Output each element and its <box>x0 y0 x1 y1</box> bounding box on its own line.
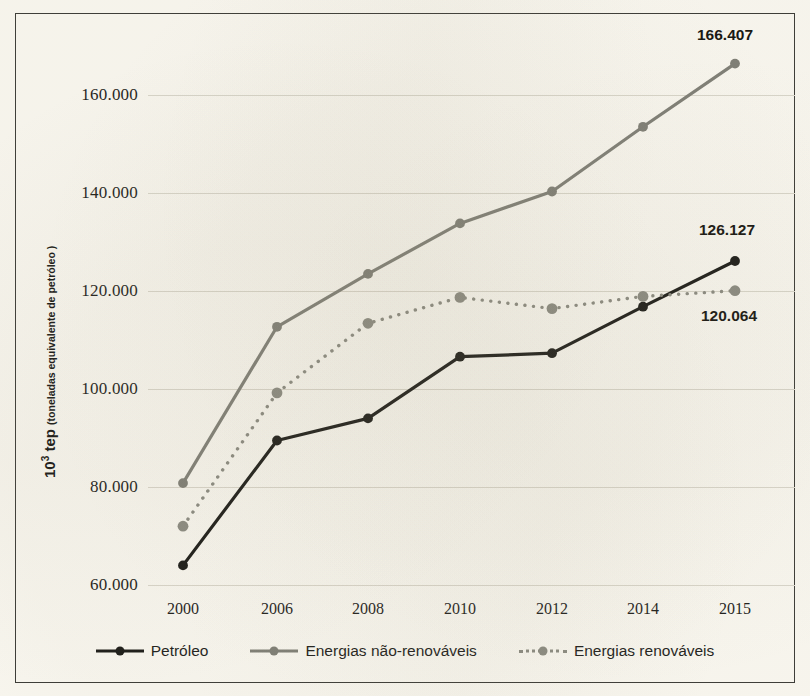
series-plot <box>0 0 810 696</box>
series-marker <box>272 436 282 446</box>
series-marker <box>363 269 373 279</box>
series-marker <box>730 59 740 69</box>
data-value-label: 166.407 <box>697 26 753 44</box>
series-marker <box>638 122 648 132</box>
legend-swatch-icon <box>96 645 144 657</box>
series-marker <box>638 302 648 312</box>
data-value-label: 120.064 <box>701 307 757 325</box>
series-line <box>183 261 735 565</box>
series-marker <box>178 561 188 571</box>
legend-label: Petróleo <box>151 642 209 660</box>
series-marker <box>547 187 557 197</box>
series-marker <box>730 285 741 296</box>
chart-legend: PetróleoEnergias não-renováveisEnergias … <box>15 636 795 666</box>
series-marker <box>638 291 649 302</box>
series-marker <box>455 219 465 229</box>
legend-swatch-icon <box>250 645 298 657</box>
legend-swatch-icon <box>519 645 567 657</box>
series-line <box>183 64 735 484</box>
series-marker <box>455 292 466 303</box>
legend-label: Energias renováveis <box>574 642 714 660</box>
series-marker <box>730 256 740 266</box>
series-marker <box>547 348 557 358</box>
legend-item-2[interactable]: Energias não-renováveis <box>250 642 476 660</box>
legend-label: Energias não-renováveis <box>305 642 476 660</box>
legend-item-3[interactable]: Energias renováveis <box>519 642 714 660</box>
series-marker <box>363 414 373 424</box>
series-marker <box>272 388 283 399</box>
series-marker <box>178 521 189 532</box>
chart-page: 103 tep (toneladas equivalente de petról… <box>0 0 810 696</box>
series-marker <box>363 318 374 329</box>
series-line <box>183 291 735 527</box>
series-marker <box>178 478 188 488</box>
series-marker <box>547 303 558 314</box>
legend-item-1[interactable]: Petróleo <box>96 642 209 660</box>
series-marker <box>455 352 465 362</box>
data-value-label: 126.127 <box>699 221 755 239</box>
series-marker <box>272 322 282 332</box>
